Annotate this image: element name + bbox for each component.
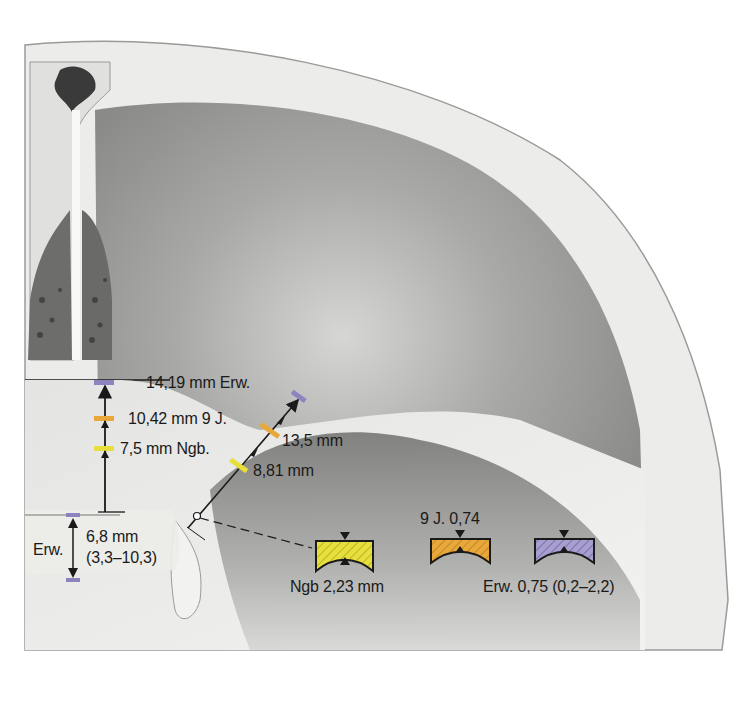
marker-adult-lower-bottom bbox=[66, 578, 80, 582]
label-lower-range: (3,3–10,3) bbox=[86, 549, 157, 567]
marker-9y-vertical bbox=[94, 416, 114, 421]
marker-adult-lower-top bbox=[66, 513, 80, 517]
label-erw-side: Erw. bbox=[33, 541, 63, 559]
label-oblique-8-81: 8,81 mm bbox=[253, 462, 314, 480]
label-newborn-vertical: 7,5 mm Ngb. bbox=[120, 440, 209, 458]
label-thickness-newborn: Ngb 2,23 mm bbox=[290, 578, 384, 596]
label-oblique-13-5: 13,5 mm bbox=[282, 432, 343, 450]
label-thickness-9-years: 9 J. 0,74 bbox=[420, 510, 480, 528]
label-thickness-adult: Erw. 0,75 (0,2–2,2) bbox=[483, 578, 614, 596]
marker-newborn-vertical bbox=[94, 446, 114, 451]
label-adult-vertical: 14,19 mm Erw. bbox=[146, 374, 250, 392]
label-9y-vertical: 10,42 mm 9 J. bbox=[128, 410, 227, 428]
label-lower-value: 6,8 mm bbox=[86, 528, 138, 546]
marker-adult-vertical bbox=[94, 380, 114, 385]
skull-base-illustration bbox=[0, 0, 741, 707]
anatomical-figure: 14,19 mm Erw. 10,42 mm 9 J. 7,5 mm Ngb. … bbox=[0, 0, 741, 707]
